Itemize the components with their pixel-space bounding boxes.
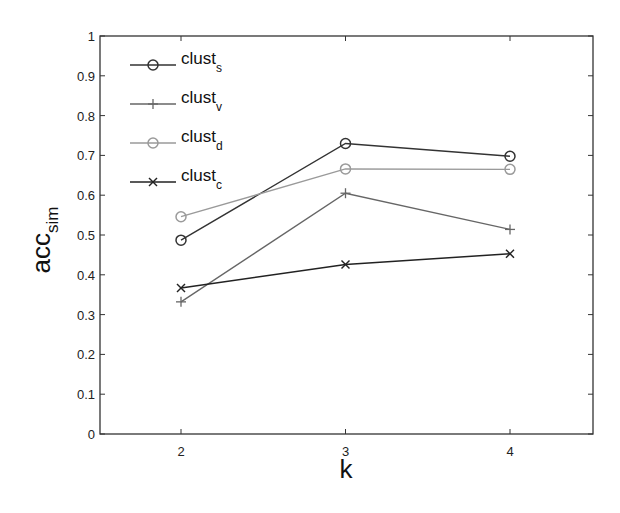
legend-item: clustv xyxy=(130,88,222,114)
data-point xyxy=(505,224,515,234)
y-tick-label: 0.9 xyxy=(77,69,95,84)
y-tick-label: 0.1 xyxy=(77,387,95,402)
legend-label-sub: c xyxy=(216,178,222,192)
y-axis-label: accsim xyxy=(26,207,62,274)
y-tick-label: 0.6 xyxy=(77,188,95,203)
y-tick-label: 1 xyxy=(88,29,95,44)
data-point xyxy=(176,297,186,307)
data-point xyxy=(341,188,351,198)
series-clust-v xyxy=(176,188,515,307)
legend-label: clusts xyxy=(181,49,222,75)
legend-item: clusts xyxy=(130,49,222,75)
x-tick-label: 2 xyxy=(177,444,184,459)
legend-marker xyxy=(148,99,158,109)
legend-item: clustd xyxy=(130,127,223,153)
y-axis-label-main: acc xyxy=(26,233,56,273)
legend-label: clustc xyxy=(181,166,222,192)
y-tick-label: 0.8 xyxy=(77,109,95,124)
legend-label-main: clust xyxy=(181,88,216,107)
plot-frame xyxy=(100,36,593,434)
line-chart: 00.10.20.30.40.50.60.70.80.91 234 clusts… xyxy=(0,0,620,513)
y-tick-label: 0.2 xyxy=(77,347,95,362)
y-axis-label-sub: sim xyxy=(43,207,62,233)
legend-label: clustd xyxy=(181,127,223,153)
y-tick-label: 0 xyxy=(88,427,95,442)
y-tick-label: 0.4 xyxy=(77,268,95,283)
legend-label-sub: v xyxy=(216,100,222,114)
x-axis-label: k xyxy=(340,454,354,484)
y-tick-label: 0.3 xyxy=(77,308,95,323)
legend-label-sub: s xyxy=(216,61,222,75)
x-tick-label: 4 xyxy=(506,444,513,459)
y-tick-label: 0.5 xyxy=(77,228,95,243)
legend-label-main: clust xyxy=(181,127,216,146)
series-line xyxy=(181,254,510,288)
series-line xyxy=(181,193,510,302)
legend-item: clustc xyxy=(130,166,222,192)
y-tick-label: 0.7 xyxy=(77,148,95,163)
legend-label-main: clust xyxy=(181,49,216,68)
legend-label: clustv xyxy=(181,88,222,114)
legend-label-main: clust xyxy=(181,166,216,185)
legend-label-sub: d xyxy=(216,139,223,153)
